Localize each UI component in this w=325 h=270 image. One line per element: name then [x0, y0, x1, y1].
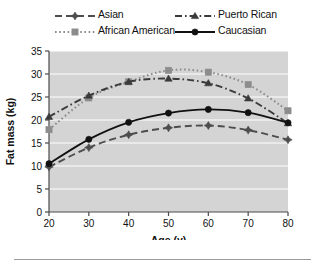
legend-swatch-african-american — [55, 24, 95, 36]
legend-item-caucasian: Caucasian — [175, 22, 317, 38]
data-point-marker — [46, 161, 52, 167]
y-tick-label: 0 — [36, 207, 42, 218]
data-point-marker — [245, 81, 251, 87]
x-tick-label: 50 — [163, 218, 175, 229]
plot-area: 0510152025303520304050607080 Age (y)Fat … — [0, 40, 325, 240]
x-axis-title: Age (y) — [151, 234, 187, 240]
legend-swatch-asian — [55, 8, 95, 20]
figure-bottom-rule — [14, 259, 311, 260]
x-tick-label: 60 — [203, 218, 215, 229]
x-tick-label: 40 — [123, 218, 135, 229]
line-chart-svg: 0510152025303520304050607080 Age (y)Fat … — [0, 40, 325, 240]
y-tick-label: 20 — [31, 115, 43, 126]
y-tick-label: 10 — [31, 161, 43, 172]
x-tick-label: 30 — [83, 218, 95, 229]
x-tick-label: 20 — [43, 218, 55, 229]
y-axis-title: Fat mass (kg) — [4, 98, 16, 166]
legend-swatch-puerto-rican — [175, 8, 215, 20]
legend-label-puerto-rican: Puerto Rican — [218, 8, 277, 20]
data-point-marker — [165, 67, 171, 73]
legend-swatch-caucasian — [175, 24, 215, 36]
chart-legend: Asian Puerto Rican African American Cauc… — [55, 6, 317, 38]
y-tick-label: 15 — [31, 138, 43, 149]
legend-marker — [192, 29, 198, 35]
data-point-marker — [126, 119, 132, 125]
legend-label-asian: Asian — [98, 8, 124, 20]
legend-marker — [71, 12, 79, 20]
legend-item-african-american: African American — [55, 22, 175, 38]
data-point-marker — [86, 136, 92, 142]
data-point-marker — [205, 106, 211, 112]
legend-label-caucasian: Caucasian — [218, 24, 266, 36]
figure: Asian Puerto Rican African American Cauc… — [0, 0, 325, 270]
data-point-marker — [46, 127, 52, 133]
x-tick-label: 70 — [243, 218, 255, 229]
data-point-marker — [245, 110, 251, 116]
data-point-marker — [285, 108, 291, 114]
legend-marker — [72, 29, 78, 35]
y-tick-label: 5 — [36, 184, 42, 195]
y-tick-label: 35 — [31, 46, 43, 57]
y-tick-label: 30 — [31, 69, 43, 80]
data-point-marker — [285, 120, 291, 126]
data-point-marker — [165, 110, 171, 116]
legend-item-asian: Asian — [55, 6, 175, 22]
legend-label-african-american: African American — [98, 24, 175, 36]
x-tick-label: 80 — [282, 218, 294, 229]
legend-item-puerto-rican: Puerto Rican — [175, 6, 317, 22]
y-tick-label: 25 — [31, 92, 43, 103]
data-point-marker — [205, 69, 211, 75]
